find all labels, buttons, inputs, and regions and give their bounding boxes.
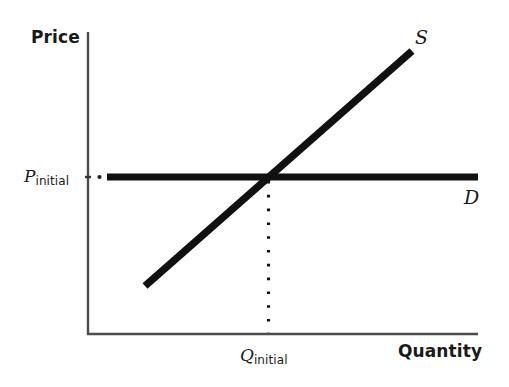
- price-axis-dot: [97, 175, 101, 179]
- x-axis-title: Quantity: [398, 341, 482, 361]
- price-variable-symbol: P: [24, 166, 35, 186]
- price-initial-tick-label: Pinitial: [24, 166, 69, 188]
- y-axis-title: Price: [31, 27, 80, 47]
- demand-curve-label: D: [464, 186, 479, 208]
- supply-curve-label: S: [415, 26, 428, 48]
- price-subscript: initial: [35, 174, 69, 188]
- quantity-initial-tick-label: Qinitial: [240, 345, 288, 367]
- chart-canvas: [0, 0, 509, 387]
- quantity-subscript: initial: [254, 353, 288, 367]
- supply-curve: [145, 51, 412, 286]
- quantity-variable-symbol: Q: [240, 345, 254, 365]
- supply-demand-chart: Price Quantity Pinitial Qinitial S D: [0, 0, 509, 387]
